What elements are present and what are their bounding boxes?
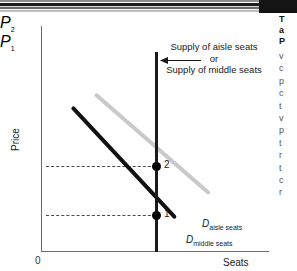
origin-label: 0	[35, 255, 41, 266]
demand-label-middle: Dmiddle seats	[186, 234, 233, 247]
side-body-line: t	[279, 100, 297, 112]
equilibrium-label-2: 2	[164, 159, 170, 170]
side-text-column: T a P v c p c t v p t r t c r	[279, 14, 297, 264]
side-body-line: v	[279, 112, 297, 124]
supply-annotation-line-3: Supply of middle seats	[160, 64, 268, 76]
top-right-block	[259, 0, 297, 13]
y-axis-label: Price	[10, 117, 21, 163]
supply-demand-chart: Price Seats 0 P2 P1 2 1 Supply of aisle …	[0, 14, 270, 271]
side-body-line: t	[279, 162, 297, 174]
side-body-line: c	[279, 87, 297, 99]
side-body-line: p	[279, 75, 297, 87]
equilibrium-point-1	[152, 211, 161, 220]
side-body-line: c	[279, 62, 297, 74]
equilibrium-label-1: 1	[164, 208, 170, 219]
demand-label-aisle: Daisle seats	[202, 218, 242, 231]
side-body-line: c	[279, 174, 297, 186]
demand-curve-aisle	[94, 92, 211, 195]
side-body-line: v	[279, 50, 297, 62]
demand-curve-middle	[71, 106, 178, 220]
price-guide-p1	[46, 215, 156, 216]
side-body-line: t	[279, 137, 297, 149]
top-rule-band	[0, 0, 297, 14]
side-body-line: p	[279, 124, 297, 136]
side-heading-line: T	[279, 14, 297, 25]
price-guide-p2	[46, 166, 156, 167]
side-body-line: r	[279, 186, 297, 198]
side-heading-line: a	[279, 25, 297, 36]
figure-page: Price Seats 0 P2 P1 2 1 Supply of aisle …	[0, 0, 297, 271]
side-heading-line: P	[279, 36, 297, 47]
rule-line-7	[0, 10, 297, 12]
x-axis-label: Seats	[223, 257, 249, 268]
supply-curve-vertical	[155, 52, 158, 252]
side-body-line: r	[279, 149, 297, 161]
supply-pointer-arrow-icon	[160, 56, 202, 65]
y-axis	[41, 26, 42, 252]
equilibrium-point-2	[152, 162, 161, 171]
supply-annotation-line-1: Supply of aisle seats	[160, 41, 268, 53]
